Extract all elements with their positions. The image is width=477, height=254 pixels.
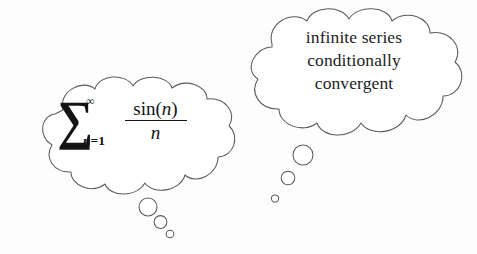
summation-formula: ∞ ∑ n=1 sin(n) n	[56, 96, 187, 146]
thought-text-line-1: infinite series	[268, 26, 440, 49]
numerator-variable: n	[162, 98, 172, 119]
right-trail-circle-3	[271, 195, 278, 202]
thought-text-line-2: conditionally	[268, 49, 440, 72]
left-trail-circle-3	[166, 230, 174, 238]
thought-text-line-3: convergent	[268, 72, 440, 95]
summation-lower-limit: n=1	[83, 134, 105, 148]
summation-operator-group: ∞ ∑ n=1	[56, 96, 95, 146]
fraction-numerator: sin(n)	[130, 99, 180, 120]
sine-function-label: sin(	[133, 98, 162, 119]
right-trail-circle-1	[293, 145, 313, 165]
thought-text-block: infinite series conditionally convergent	[268, 26, 440, 95]
left-trail-circle-1	[139, 198, 157, 216]
fraction-denominator: n	[151, 121, 161, 143]
summation-lower-limit-value: =1	[91, 133, 105, 148]
illustration-canvas: ∞ ∑ n=1 sin(n) n infinite series conditi…	[0, 0, 477, 254]
fraction-group: sin(n) n	[125, 99, 187, 143]
right-trail-circle-2	[281, 171, 295, 185]
left-trail-circle-2	[154, 216, 167, 229]
summation-lower-limit-variable: n	[83, 133, 91, 148]
numerator-close-paren: )	[171, 98, 177, 119]
